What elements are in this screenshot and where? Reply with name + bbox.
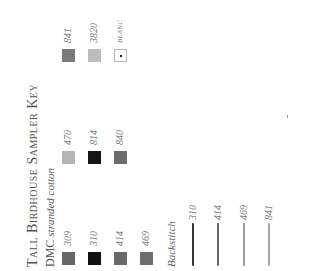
backstitch-line-414	[217, 223, 219, 266]
swatch-label-814: 814	[88, 130, 99, 145]
backstitch-line-841	[268, 223, 270, 266]
backstitch-label-469: 469	[238, 205, 249, 220]
blanc-dot-icon	[120, 55, 122, 57]
swatch-label-blanc: BLANC	[116, 20, 124, 43]
swatch-814	[88, 151, 101, 164]
swatch-414	[114, 252, 127, 265]
backstitch-line-469	[243, 223, 245, 266]
key-subtitle: DMC stranded cotton	[43, 168, 58, 267]
backstitch-label-414: 414	[212, 205, 223, 220]
speck-mark	[287, 115, 288, 118]
swatch-label-310: 310	[88, 231, 99, 246]
swatch-3820	[88, 49, 101, 62]
swatch-841	[62, 49, 75, 62]
swatch-label-840: 840	[114, 130, 125, 145]
swatch-label-3820: 3820	[88, 23, 99, 43]
backstitch-heading: Backstitch	[165, 221, 177, 267]
subtitle-brand: DMC	[43, 240, 57, 267]
backstitch-line-310	[192, 223, 194, 266]
swatch-470	[62, 151, 75, 164]
swatch-label-309: 309	[62, 231, 73, 246]
swatch-label-470: 470	[62, 130, 73, 145]
swatch-blanc	[114, 49, 127, 62]
swatch-309	[62, 252, 75, 265]
key-title: Tall Birdhouse Sampler Key	[25, 84, 41, 267]
subtitle-rest: stranded cotton	[44, 168, 56, 237]
backstitch-label-310: 310	[187, 205, 198, 220]
backstitch-label-841: 841	[263, 205, 274, 220]
swatch-label-841: 841	[62, 28, 73, 43]
swatch-label-414: 414	[114, 231, 125, 246]
swatch-469	[140, 252, 153, 265]
swatch-label-469: 469	[140, 231, 151, 246]
swatch-310	[88, 252, 101, 265]
swatch-840	[114, 151, 127, 164]
